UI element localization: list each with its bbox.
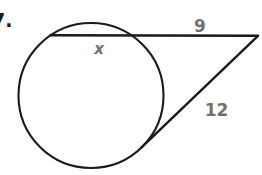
geometry-figure-canvas: x 9 12 7. (0, 0, 262, 175)
label-secant-external-9: 9 (194, 16, 206, 36)
diagram-background (0, 0, 262, 175)
label-tangent-12: 12 (205, 100, 229, 120)
geometry-diagram: x 9 12 7. (0, 0, 262, 175)
secant-line (50, 35, 258, 36)
label-chord-x: x (93, 40, 105, 58)
problem-number: 7. (0, 9, 12, 31)
